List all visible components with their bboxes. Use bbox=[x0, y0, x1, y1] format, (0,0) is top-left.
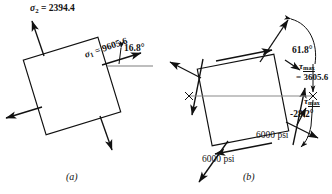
sigma1-arrow-left bbox=[6, 107, 42, 118]
sigma1-arrow-group bbox=[6, 53, 141, 118]
angle-lower-value: -28.2° bbox=[290, 109, 314, 119]
shear-arrow-left bbox=[192, 59, 203, 115]
sigma2-arrow-down bbox=[100, 116, 112, 150]
sigma1-arrow-right bbox=[102, 53, 141, 65]
shear-arrow-bottom bbox=[215, 143, 272, 154]
tau-max-pointer-upper bbox=[285, 60, 300, 70]
angle-upper-value: 61.8° bbox=[292, 45, 312, 55]
tau-subscript-lower: max bbox=[308, 99, 320, 106]
panel-b-caption: (b) bbox=[243, 172, 255, 182]
angle-label-lower-b: -28.2° bbox=[290, 110, 314, 120]
normal-stress-label-right: 6000 psi bbox=[256, 131, 288, 141]
panel-a bbox=[6, 21, 153, 150]
sigma2-subscript: 2 bbox=[35, 7, 38, 14]
caption-b-text: (b) bbox=[243, 171, 255, 182]
normal-arrow-upper-left bbox=[170, 62, 201, 78]
tau-max-value-label: = 3605.6 bbox=[296, 73, 328, 82]
normal-stress-label-left: 6000 psi bbox=[202, 155, 234, 165]
tau-subscript-upper: max bbox=[303, 64, 315, 71]
angle-value-a: 16.8° bbox=[124, 43, 144, 53]
tau-max-value: = 3605.6 bbox=[296, 72, 328, 82]
normal-arrow-lower-right bbox=[286, 122, 318, 138]
angle-label-a: 16.8° bbox=[124, 44, 144, 54]
sigma2-value: = 2394.4 bbox=[41, 3, 75, 13]
angle-label-upper-b: 61.8° bbox=[292, 46, 312, 56]
caption-a-text: (a) bbox=[66, 171, 78, 182]
sigma2-label-a: σ2 = 2394.4 bbox=[30, 4, 75, 14]
angle-arc-lower-b bbox=[301, 100, 313, 147]
normal-stress-right-value: 6000 psi bbox=[256, 130, 288, 140]
tau-max-label-upper: τmax bbox=[299, 62, 315, 72]
angle-indicator-a bbox=[119, 48, 121, 64]
panel-a-caption: (a) bbox=[66, 172, 78, 182]
sigma2-arrow-up bbox=[32, 21, 44, 56]
angle-arc-upper-b bbox=[291, 19, 316, 64]
panel-b bbox=[170, 19, 318, 182]
sigma1-subscript: 1 bbox=[89, 51, 95, 59]
stress-element-figure bbox=[0, 0, 332, 194]
tau-max-label-lower: τmax bbox=[304, 97, 320, 107]
normal-stress-left-value: 6000 psi bbox=[202, 154, 234, 164]
